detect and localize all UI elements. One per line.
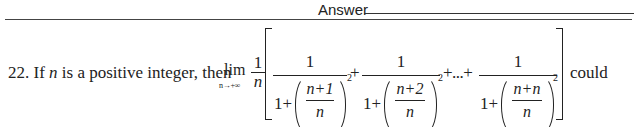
term-denominator: 1+ n+1 n 2	[273, 74, 347, 127]
term-denominator: 1+ n+2 n 2	[362, 74, 440, 127]
inner-denominator: n	[511, 103, 543, 121]
question-text: 22. If n is a positive integer, then	[8, 63, 232, 83]
inner-denominator: n	[305, 103, 335, 121]
trailing-text: could	[570, 63, 608, 83]
sum-term-1: 1 1+ n+1 n 2	[273, 52, 347, 122]
term-denominator: 1+ n+n n 2	[479, 74, 557, 127]
inner-numerator: n+2	[394, 80, 426, 98]
right-paren	[333, 76, 346, 127]
inner-fraction: n+n n	[511, 80, 543, 121]
fraction-bar	[512, 100, 542, 101]
inner-denominator: n	[394, 103, 426, 121]
fraction-bar	[306, 100, 334, 101]
inner-fraction: n+2 n	[394, 80, 426, 121]
sum-term-2: 1 1+ n+2 n 2	[362, 52, 440, 122]
one-plus: 1+	[363, 94, 381, 114]
exponent: 2	[553, 72, 558, 83]
term-numerator: 1	[273, 52, 347, 72]
coefficient-numerator: 1	[251, 54, 265, 72]
question-if: If	[34, 63, 45, 82]
sum-term-n: 1 1+ n+n n 2	[479, 52, 557, 122]
term-numerator: 1	[479, 52, 557, 72]
right-paren	[541, 76, 554, 127]
ellipsis-connector: +...+	[443, 63, 472, 83]
inner-numerator: n+n	[511, 80, 543, 98]
horizontal-divider	[5, 19, 632, 20]
one-plus: 1+	[480, 94, 498, 114]
coefficient-denominator: n	[251, 73, 265, 91]
right-paren	[424, 76, 437, 127]
answer-label: Answer	[318, 1, 368, 18]
term-numerator: 1	[362, 52, 440, 72]
fraction-bar	[395, 100, 425, 101]
limit-subscript: n→+∞	[219, 81, 240, 90]
left-bracket	[265, 28, 272, 120]
question-variable: n	[49, 63, 58, 82]
inner-fraction: n+1 n	[305, 80, 335, 121]
inner-numerator: n+1	[305, 80, 335, 98]
coefficient-fraction: 1 n	[251, 54, 265, 91]
answer-blank-line[interactable]	[364, 13, 634, 14]
plus-sign: +	[350, 63, 360, 83]
question-clause: is a positive integer, then	[62, 63, 232, 82]
one-plus: 1+	[274, 94, 292, 114]
limit-operator: lim	[224, 61, 245, 79]
question-number: 22.	[8, 63, 29, 82]
